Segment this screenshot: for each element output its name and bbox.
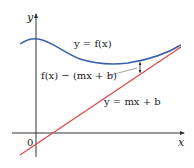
- asymptote-label: y = mx + b: [103, 96, 161, 107]
- function-label: y = f(x): [73, 38, 112, 49]
- x-axis-label: x: [178, 136, 185, 149]
- annotation-label: f(x) − (mx + b): [41, 70, 117, 81]
- y-axis-label: y: [26, 11, 34, 24]
- origin-label: 0: [27, 137, 33, 148]
- asymptote-diagram: y x 0 y = f(x) f(x) − (mx + b) y = mx + …: [0, 0, 194, 168]
